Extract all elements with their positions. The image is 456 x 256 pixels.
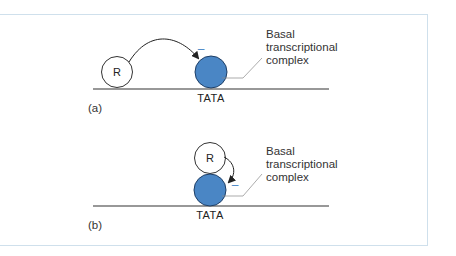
callout-leader bbox=[222, 58, 262, 78]
callout-line-1: Basal bbox=[266, 145, 295, 157]
minus-sign: – bbox=[232, 178, 239, 192]
repression-arrow bbox=[129, 39, 198, 62]
callout-line-2: transcriptional bbox=[266, 158, 338, 170]
panel-label: (a) bbox=[88, 102, 102, 114]
panel-a: R – TATA (a) Basal transcriptional compl… bbox=[88, 28, 338, 114]
panel-label: (b) bbox=[88, 219, 102, 231]
repressor-label: R bbox=[113, 66, 121, 78]
tata-label: TATA bbox=[197, 92, 225, 104]
callout-line-2: transcriptional bbox=[266, 41, 338, 53]
basal-complex-circle bbox=[195, 56, 227, 88]
minus-sign: – bbox=[198, 42, 205, 56]
tata-label: TATA bbox=[196, 209, 224, 221]
basal-complex-circle bbox=[194, 174, 226, 206]
panel-b: R – TATA (b) Basal transcriptional compl… bbox=[88, 143, 338, 232]
callout-line-3: complex bbox=[266, 171, 309, 183]
callout-line-3: complex bbox=[266, 54, 309, 66]
repression-diagram: R – TATA (a) Basal transcriptional compl… bbox=[0, 0, 456, 256]
callout-line-1: Basal bbox=[266, 28, 295, 40]
callout-leader bbox=[222, 174, 262, 196]
repressor-label: R bbox=[206, 152, 214, 164]
